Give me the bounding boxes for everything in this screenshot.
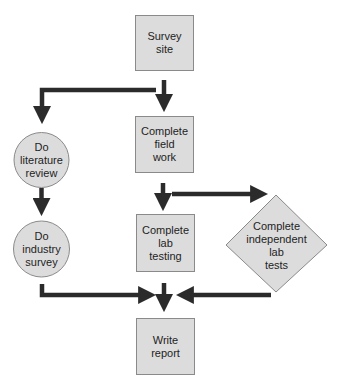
label-complete-field-work: Complete field work <box>135 116 194 173</box>
arrow-survey-to-literature <box>42 90 156 116</box>
label-complete-lab-testing: Complete lab testing <box>136 214 195 272</box>
label-write-report: Write report <box>136 318 195 375</box>
label-do-industry-survey: Do industry survey <box>13 221 70 277</box>
arrow-industry-to-report <box>42 284 148 295</box>
label-complete-independent-lab-tests: Complete independent lab tests <box>226 218 327 274</box>
label-do-literature-review: Do literature review <box>13 132 70 188</box>
label-survey-site: Survey site <box>135 15 194 71</box>
